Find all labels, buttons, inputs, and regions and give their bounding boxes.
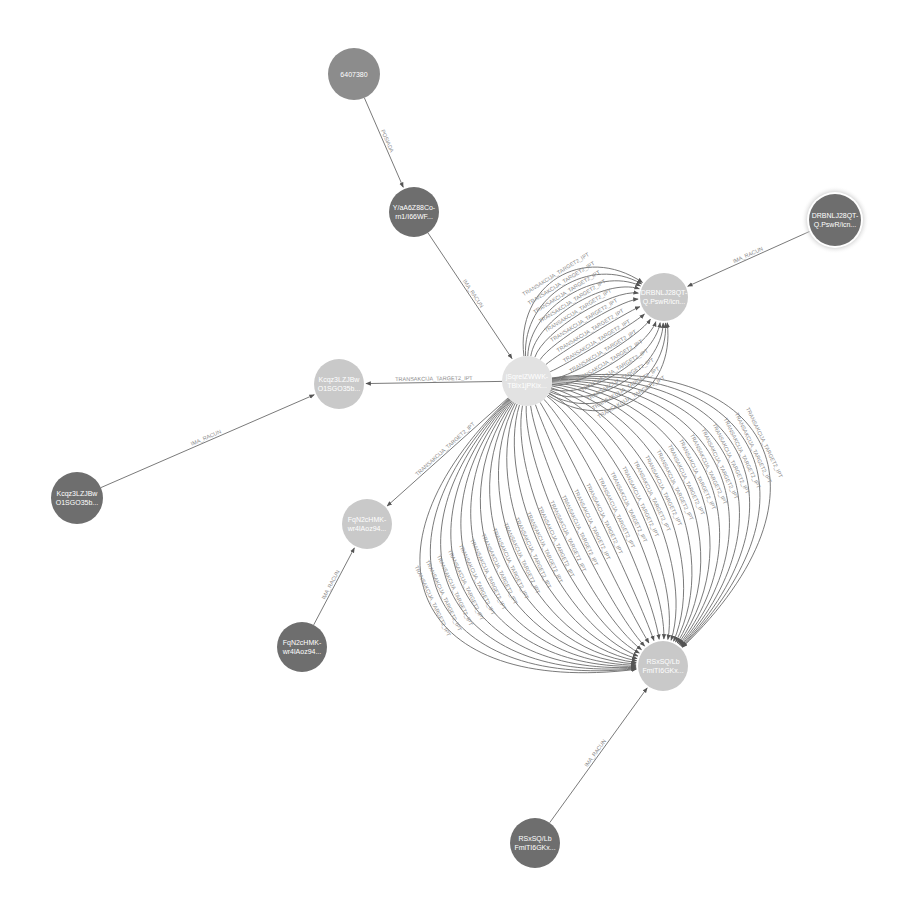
edge-label: TRANSAKCIJA_TARGET2_IPT bbox=[395, 375, 473, 382]
node-label: DRBNLJ28QT- bbox=[641, 289, 688, 297]
node-label: Q.PswR/icn... bbox=[643, 298, 685, 306]
edge-ima-racun[interactable] bbox=[428, 233, 512, 359]
node-label: Q.PswR/icn... bbox=[814, 221, 856, 229]
node-circle[interactable] bbox=[638, 641, 688, 691]
node-label: O1SGO35b... bbox=[318, 385, 360, 392]
node-label: FqN2cHMK- bbox=[283, 639, 322, 647]
node-label: Kcqz3LZJBw bbox=[319, 376, 361, 384]
graph-node[interactable]: RSxSQ/LbFmiTI6GKx... bbox=[638, 641, 688, 691]
edge-ima-racun[interactable] bbox=[314, 548, 355, 625]
node-circle[interactable] bbox=[51, 472, 103, 524]
graph-node[interactable]: Kcqz3LZJBwO1SGO35b... bbox=[51, 472, 103, 524]
edge-ima-racun[interactable] bbox=[550, 688, 648, 823]
node-label: wr4lAoz94... bbox=[347, 525, 387, 532]
edge-label: IMA_RACUN bbox=[583, 738, 607, 768]
graph-node[interactable]: Y/aA6Z88Co-rn1/I66WF... bbox=[389, 187, 439, 237]
edge-posiada[interactable] bbox=[364, 98, 403, 187]
node-circle[interactable] bbox=[809, 194, 861, 246]
graph-node[interactable]: DRBNLJ28QT-Q.PswR/icn... bbox=[801, 186, 869, 254]
node-circle[interactable] bbox=[510, 818, 560, 868]
node-circle[interactable] bbox=[502, 356, 552, 406]
node-label: FmiTI6GKx... bbox=[642, 667, 683, 674]
edge-ima-racun[interactable] bbox=[101, 395, 314, 488]
edge-label: IMA_RACUN bbox=[190, 428, 222, 446]
graph-node[interactable]: DRBNLJ28QT-Q.PswR/icn... bbox=[640, 273, 688, 321]
node-circle[interactable] bbox=[314, 359, 364, 409]
node-circle[interactable] bbox=[342, 499, 392, 549]
edge-transakcija-target2-ipt[interactable] bbox=[387, 398, 508, 506]
node-label: RSxSQ/Lb bbox=[646, 658, 679, 666]
node-label: Kcqz3LZJBw bbox=[57, 490, 99, 498]
node-label: O1SGO35b... bbox=[56, 499, 98, 506]
graph-node[interactable]: RSxSQ/LbFmiTI6GKx... bbox=[510, 818, 560, 868]
node-circle[interactable] bbox=[389, 187, 439, 237]
node-label: wr4lAoz94... bbox=[282, 648, 322, 655]
node-label: TBlx1jPKix... bbox=[507, 382, 547, 390]
node-label: FmiTI6GKx... bbox=[514, 844, 555, 851]
node-label: DRBNLJ28QT- bbox=[812, 212, 859, 220]
graph-node[interactable]: FqN2cHMK-wr4lAoz94... bbox=[342, 499, 392, 549]
graph-node[interactable]: 6407380 bbox=[328, 48, 380, 100]
edge-label: POSIADA bbox=[380, 129, 395, 154]
edge-transakcija-target2-ipt[interactable] bbox=[366, 381, 502, 383]
graph-node[interactable]: FqN2cHMK-wr4lAoz94... bbox=[277, 622, 327, 672]
edge-label: IMA_RACUN bbox=[320, 569, 340, 600]
graph-node[interactable]: Kcqz3LZJBwO1SGO35b... bbox=[314, 359, 364, 409]
edge-ima-racun[interactable] bbox=[688, 231, 812, 287]
node-label: RSxSQ/Lb bbox=[518, 835, 551, 843]
node-label: rn1/I66WF... bbox=[395, 213, 433, 220]
node-label: jSqrelZWWK- bbox=[505, 373, 549, 381]
node-label: FqN2cHMK- bbox=[348, 516, 387, 524]
graph-node[interactable]: jSqrelZWWK-TBlx1jPKix... bbox=[502, 356, 552, 406]
edge-label: IMA_RACUN bbox=[732, 245, 764, 264]
node-circle[interactable] bbox=[640, 273, 688, 321]
edge-label: IMA_RACUN bbox=[462, 278, 485, 308]
graph-canvas[interactable]: POSIADAIMA_RACUNIMA_RACUNTRANSAKCIJA_TAR… bbox=[0, 0, 917, 906]
node-circle[interactable] bbox=[277, 622, 327, 672]
node-label: 6407380 bbox=[340, 71, 367, 78]
node-label: Y/aA6Z88Co- bbox=[393, 204, 436, 211]
edge-labels-layer: POSIADAIMA_RACUNIMA_RACUNTRANSAKCIJA_TAR… bbox=[190, 129, 784, 768]
